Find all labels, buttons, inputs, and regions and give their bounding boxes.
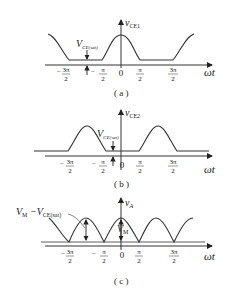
svg-text:2: 2	[101, 167, 105, 175]
svg-text:−: −	[57, 68, 61, 76]
x-label: ωt	[204, 163, 216, 175]
svg-text:3π: 3π	[169, 66, 177, 74]
svg-text:0: 0	[120, 250, 125, 260]
svg-text:2: 2	[102, 257, 106, 265]
svg-text:−: −	[92, 250, 96, 258]
y-label: vA	[125, 197, 133, 209]
svg-text:0: 0	[120, 160, 125, 170]
caption-c: ( c )	[114, 276, 129, 286]
vm-minus-vcesat-label: VM −VCE(sat)	[16, 206, 61, 219]
svg-text:3π: 3π	[170, 248, 178, 256]
svg-text:2: 2	[68, 167, 72, 175]
svg-text:π: π	[138, 66, 142, 74]
svg-text:3π: 3π	[66, 248, 74, 256]
svg-text:−: −	[60, 160, 64, 168]
svg-text:0: 0	[119, 68, 124, 78]
svg-text:−: −	[61, 250, 65, 258]
caption-b: ( b )	[114, 179, 129, 189]
svg-text:2: 2	[171, 167, 175, 175]
svg-text:−: −	[92, 160, 96, 168]
x-label: ωt	[204, 250, 216, 262]
x-label: ωt	[204, 66, 216, 78]
tick-labels: −3π 2 −π 2 0 π 2 3π 2	[61, 248, 179, 265]
svg-text:π: π	[137, 248, 141, 256]
svg-text:2: 2	[172, 257, 176, 265]
vm-label: VM	[117, 223, 129, 235]
tick-labels: −3π 2 −π 2 0 π 2 3π 2	[57, 66, 178, 83]
y-label: vCE2	[125, 107, 140, 119]
y-label: vCE1	[125, 17, 140, 29]
vcesat-label: VCE(sat)	[76, 38, 98, 50]
tick-labels: −3π 2 −π 2 0 π 2 3π 2	[60, 158, 178, 175]
svg-text:2: 2	[138, 167, 142, 175]
panel-a: VCE(sat) vCE1 ωt −3π 2 −π 2 0 π 2 3π 2 (…	[45, 17, 216, 98]
panel-b: VCE(sat) vCE2 ωt −3π 2 −π 2 0 π 2 3π 2 (…	[34, 107, 216, 189]
waveform-diagram: VCE(sat) vCE1 ωt −3π 2 −π 2 0 π 2 3π 2 (…	[0, 0, 229, 302]
svg-text:3π: 3π	[62, 66, 70, 74]
svg-text:−: −	[91, 68, 95, 76]
panel-c: VM −VCE(sat) VM vA ωt −3π 2 −π 2 0 π 2 3…	[16, 197, 216, 286]
svg-text:π: π	[138, 158, 142, 166]
svg-text:π: π	[101, 158, 105, 166]
svg-text:2: 2	[171, 75, 175, 83]
svg-text:3π: 3π	[66, 158, 74, 166]
svg-text:2: 2	[68, 257, 72, 265]
svg-text:2: 2	[138, 75, 142, 83]
svg-text:2: 2	[137, 257, 141, 265]
svg-text:3π: 3π	[169, 158, 177, 166]
svg-text:π: π	[102, 248, 106, 256]
svg-text:2: 2	[64, 75, 68, 83]
caption-a: ( a )	[114, 88, 129, 98]
vcesat-label: VCE(sat)	[97, 128, 119, 140]
svg-text:2: 2	[101, 75, 105, 83]
svg-text:π: π	[101, 66, 105, 74]
